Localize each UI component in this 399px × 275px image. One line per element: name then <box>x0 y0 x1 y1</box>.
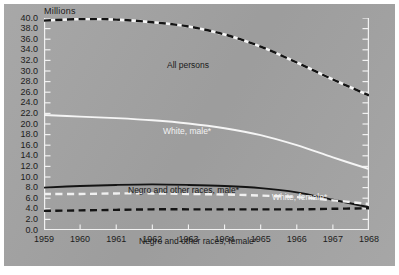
series-line-all-persons <box>44 19 369 95</box>
x-axis-tick-label: 1961 <box>106 233 126 245</box>
y-axis-tick-label: 24.0 <box>20 98 38 107</box>
series-label-white-male: White, male* <box>163 126 211 136</box>
x-axis-tick-label: 1966 <box>287 233 307 245</box>
y-axis-tick-label: 20.0 <box>20 120 38 129</box>
y-axis-tick-label: 14.0 <box>20 151 38 160</box>
chart-figure: Millions 0.02.04.06.08.010.012.014.016.0… <box>0 0 399 275</box>
x-axis-tick-label: 1967 <box>323 233 343 245</box>
series-label-white-female: White, female* <box>272 192 327 202</box>
y-axis-tick-label: 40.0 <box>20 14 38 23</box>
data-series-group <box>44 19 369 211</box>
y-axis-tick-label: 28.0 <box>20 77 38 86</box>
y-axis-tick-label: 32.0 <box>20 56 38 65</box>
x-axis-tick-label: 1959 <box>34 233 54 245</box>
y-axis-tick-label: 36.0 <box>20 35 38 44</box>
series-line-white-male <box>44 115 369 169</box>
x-axis-tick-label: 1968 <box>359 233 379 245</box>
y-axis-tick-labels: 0.02.04.06.08.010.012.014.016.018.020.02… <box>0 18 41 230</box>
y-axis-tick-label: 16.0 <box>20 141 38 150</box>
y-axis-units-label: Millions <box>44 6 76 16</box>
y-axis-tick-label: 6.0 <box>25 194 38 203</box>
y-axis-tick-label: 10.0 <box>20 173 38 182</box>
x-axis-tick-label: 1960 <box>70 233 90 245</box>
series-label-negro-other-female: Negro and other races, female* <box>139 236 257 246</box>
y-axis-tick-label: 38.0 <box>20 24 38 33</box>
y-axis-tick-label: 2.0 <box>25 215 38 224</box>
y-axis-tick-label: 18.0 <box>20 130 38 139</box>
y-axis-tick-label: 34.0 <box>20 45 38 54</box>
y-axis-tick-label: 26.0 <box>20 88 38 97</box>
y-axis-tick-label: 4.0 <box>25 204 38 213</box>
y-axis-tick-label: 8.0 <box>25 183 38 192</box>
series-label-negro-other-male: Negro and other races, male* <box>128 185 239 195</box>
series-label-all-persons: All persons <box>167 60 209 70</box>
series-line-negro-and-other-races-female <box>44 208 369 211</box>
y-axis-tick-label: 30.0 <box>20 67 38 76</box>
y-axis-tick-label: 22.0 <box>20 109 38 118</box>
y-axis-tick-label: 12.0 <box>20 162 38 171</box>
